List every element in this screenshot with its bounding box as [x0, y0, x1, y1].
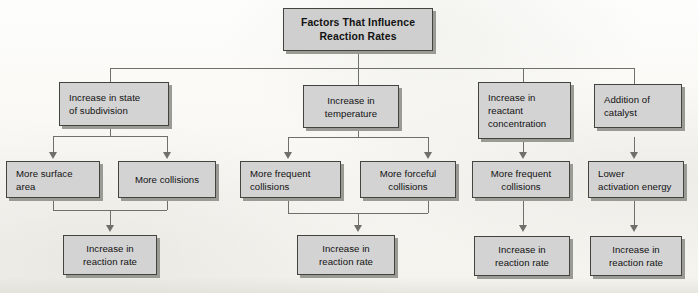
box-addition-catalyst-label: Addition of catalyst: [595, 93, 681, 119]
box-increase-temperature-label: Increase in temperature: [304, 94, 398, 120]
connector-rate4-stem: [634, 198, 635, 226]
connector-temperature-right: [428, 137, 429, 153]
box-more-forceful-collisions[interactable]: More forceful collisions: [360, 161, 456, 198]
box-lower-activation-energy[interactable]: Lower activation energy: [588, 161, 684, 198]
arrowhead-frequent-collisions: [284, 152, 292, 159]
flowchart-canvas: Factors That Influence Reaction Rates In…: [0, 0, 698, 293]
connector-subdivision-bus: [53, 136, 167, 137]
box-more-frequent-collisions-label: More frequent collisions: [241, 167, 340, 193]
connector-subdivision-right: [167, 136, 168, 153]
box-more-frequent-collisions-2[interactable]: More frequent collisions: [472, 161, 570, 198]
connector-temperature-left: [288, 137, 289, 153]
connector-subdivision-left: [53, 136, 54, 153]
connector-surface-area-down: [53, 198, 54, 210]
connector-catalyst-down: [634, 137, 635, 153]
box-lower-activation-energy-label: Lower activation energy: [589, 167, 683, 193]
box-increase-state-subdivision-label: Increase in state of subdivision: [60, 91, 168, 117]
box-increase-reactant-concentration[interactable]: Increase in reactant concentration: [478, 82, 571, 139]
arrowhead-rate-2: [354, 225, 362, 232]
connector-drop-temperature: [358, 68, 359, 85]
connector-rate1-stem: [110, 210, 111, 226]
connector-drop-catalyst: [634, 68, 635, 84]
arrowhead-lower-activation: [630, 152, 638, 159]
box-increase-reaction-rate-3[interactable]: Increase in reaction rate: [474, 236, 570, 276]
connector-frequent-down: [288, 198, 289, 213]
box-increase-reaction-rate-2-label: Increase in reaction rate: [298, 242, 394, 268]
connector-more-collisions-down: [167, 198, 168, 210]
arrowhead-rate-4: [630, 225, 638, 232]
connector-title-stem: [358, 52, 359, 69]
connector-subdivision-stem: [110, 126, 111, 136]
box-addition-catalyst[interactable]: Addition of catalyst: [594, 84, 682, 128]
box-increase-reactant-concentration-label: Increase in reactant concentration: [479, 91, 570, 130]
box-more-collisions[interactable]: More collisions: [118, 161, 216, 198]
box-increase-reaction-rate-2[interactable]: Increase in reaction rate: [297, 235, 395, 275]
arrowhead-surface-area: [49, 152, 57, 159]
box-more-collisions-label: More collisions: [119, 173, 215, 186]
connector-temperature-stem: [358, 129, 359, 137]
box-more-surface-area-label: More surface area: [7, 167, 99, 193]
box-increase-temperature[interactable]: Increase in temperature: [303, 85, 399, 128]
arrowhead-rate-3: [519, 225, 527, 232]
connector-temperature-bus: [288, 137, 428, 138]
box-more-surface-area[interactable]: More surface area: [6, 161, 100, 198]
box-more-frequent-collisions-2-label: More frequent collisions: [473, 167, 569, 193]
box-more-frequent-collisions[interactable]: More frequent collisions: [240, 161, 341, 198]
box-title-factors[interactable]: Factors That Influence Reaction Rates: [283, 8, 433, 51]
connector-level2-bus: [110, 68, 635, 69]
arrowhead-forceful-collisions: [424, 152, 432, 159]
box-increase-reaction-rate-3-label: Increase in reaction rate: [475, 243, 569, 269]
arrowhead-frequent-collisions-2: [519, 152, 527, 159]
connector-rate3-stem: [523, 198, 524, 226]
connector-drop-subdivision: [110, 68, 111, 82]
box-increase-reaction-rate-4[interactable]: Increase in reaction rate: [590, 236, 682, 276]
box-increase-state-subdivision[interactable]: Increase in state of subdivision: [59, 82, 169, 126]
box-increase-reaction-rate-1-label: Increase in reaction rate: [64, 242, 156, 268]
box-title-factors-label: Factors That Influence Reaction Rates: [284, 16, 432, 44]
box-more-forceful-collisions-label: More forceful collisions: [361, 167, 455, 193]
connector-drop-concentration: [523, 68, 524, 82]
connector-forceful-down: [428, 198, 429, 213]
arrowhead-rate-1: [106, 225, 114, 232]
box-increase-reaction-rate-4-label: Increase in reaction rate: [591, 243, 681, 269]
box-increase-reaction-rate-1[interactable]: Increase in reaction rate: [63, 235, 157, 275]
arrowhead-more-collisions: [163, 152, 171, 159]
